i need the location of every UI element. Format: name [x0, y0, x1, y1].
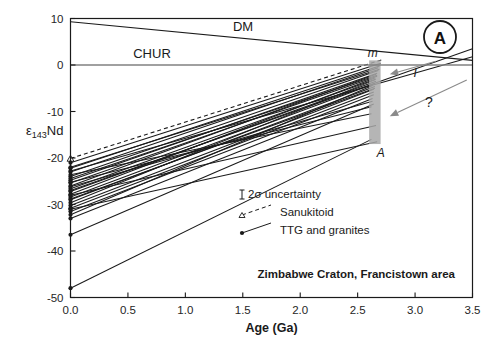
x-tick-label: 1.5: [235, 304, 251, 316]
x-tick-label: 3.5: [465, 304, 481, 316]
x-tick-label: 1.0: [177, 304, 193, 316]
y-tick-label: 10: [51, 13, 64, 25]
y-tick-label: -40: [47, 245, 64, 257]
y-tick-label: -50: [47, 292, 64, 304]
x-tick-label: 0.0: [63, 304, 79, 316]
chart-caption: Zimbabwe Craton, Francistown area: [258, 268, 456, 280]
svg-text:A: A: [434, 29, 446, 48]
x-axis-title: Age (Ga): [245, 321, 297, 335]
y-tick-label: -30: [47, 199, 64, 211]
chur-label: CHUR: [133, 46, 171, 61]
x-tick-label: 0.5: [120, 304, 136, 316]
convergence-band: [369, 60, 380, 144]
x-tick-label: 2.5: [350, 304, 366, 316]
band-label-a: A: [376, 146, 385, 160]
legend-label-uncertainty: 2σ uncertainty: [248, 188, 321, 200]
y-tick-label: -20: [47, 152, 64, 164]
legend-label-sanukitoid: Sanukitoid: [280, 206, 334, 218]
panel-letter: A: [424, 21, 456, 53]
y-tick-label: 0: [57, 59, 63, 71]
dm-label: DM: [233, 19, 253, 34]
nd-isotope-evolution-chart: 0.00.51.01.52.02.53.03.5100-10-20-30-40-…: [0, 0, 495, 351]
x-tick-label: 2.0: [292, 304, 308, 316]
figure-panel: 0.00.51.01.52.02.53.03.5100-10-20-30-40-…: [0, 0, 495, 351]
convergence-band-layer: [369, 60, 380, 144]
annotation-question: ?: [425, 94, 433, 110]
y-tick-label: -10: [47, 106, 64, 118]
legend-label-ttg: TTG and granites: [280, 224, 370, 236]
band-label-m: m: [368, 46, 378, 60]
x-tick-label: 3.0: [407, 304, 423, 316]
